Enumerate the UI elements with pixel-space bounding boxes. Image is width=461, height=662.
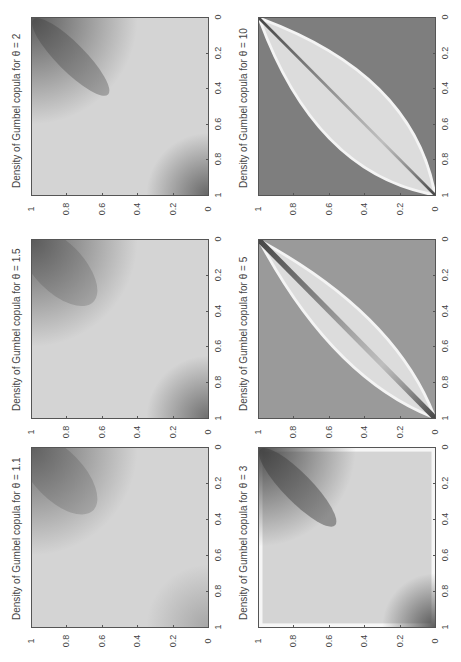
tick-mark [329,416,330,419]
y-tick-label: 0.4 [359,198,369,220]
tick-mark [400,193,401,196]
y-tick-label: 0 [430,198,440,220]
x-tick-label: 0.8 [440,371,450,393]
x-tick-label: 1 [440,616,450,638]
tick-mark [102,625,103,628]
tick-mark [206,239,209,240]
tick-mark [31,193,32,196]
tick-mark [258,193,259,196]
tick-mark [433,627,436,628]
x-tick-label: 0.8 [213,371,223,393]
y-tick-label: 0.2 [168,630,178,652]
tick-mark [206,483,209,484]
tick-mark [433,555,436,556]
tick-mark [206,591,209,592]
tick-mark [173,416,174,419]
y-tick-label: 0 [430,421,440,443]
x-tick-label: 0 [440,228,450,250]
y-tick-label: 0.6 [324,421,334,443]
y-tick-label: 0.8 [288,630,298,652]
density-heatmap [258,447,436,628]
tick-mark [137,416,138,419]
tick-mark [329,193,330,196]
tick-mark [433,88,436,89]
y-tick-label: 0.2 [395,421,405,443]
tick-mark [206,195,209,196]
tick-mark [364,416,365,419]
y-tick-label: 0.6 [97,630,107,652]
tick-mark [433,591,436,592]
y-tick-label: 0.2 [168,198,178,220]
x-tick-label: 0.4 [440,508,450,530]
tick-mark [206,17,209,18]
x-tick-label: 0.6 [440,544,450,566]
tick-mark [173,625,174,628]
panel-title: Density of Gumbel copula for θ = 5 [238,257,249,411]
tick-mark [31,625,32,628]
tick-mark [206,418,209,419]
x-tick-label: 0 [213,436,223,458]
x-tick-label: 0 [213,6,223,28]
y-tick-label: 1 [253,421,263,443]
density-heatmap [31,17,209,196]
y-tick-label: 0.6 [324,198,334,220]
x-tick-label: 1 [440,184,450,206]
x-tick-label: 0.8 [440,580,450,602]
tick-mark [433,239,436,240]
x-tick-label: 0.6 [213,544,223,566]
tick-mark [293,416,294,419]
tick-mark [293,193,294,196]
density-heatmap [31,239,209,419]
x-tick-label: 1 [213,184,223,206]
x-tick-label: 0.2 [213,472,223,494]
tick-mark [329,625,330,628]
y-tick-label: 1 [26,630,36,652]
y-tick-label: 0.6 [97,421,107,443]
y-tick-label: 0.8 [288,198,298,220]
y-tick-label: 0.4 [359,630,369,652]
x-tick-label: 0 [213,228,223,250]
tick-mark [433,17,436,18]
tick-mark [433,53,436,54]
x-tick-label: 0.4 [440,77,450,99]
x-tick-label: 0.6 [440,113,450,135]
tick-mark [433,519,436,520]
panel-title: Density of Gumbel copula for θ = 3 [238,466,249,620]
density-heatmap [31,447,209,628]
tick-mark [66,193,67,196]
tick-mark [66,416,67,419]
tick-mark [364,193,365,196]
tick-mark [173,193,174,196]
x-tick-label: 0.8 [213,148,223,170]
tick-mark [433,311,436,312]
tick-mark [400,416,401,419]
tick-mark [102,416,103,419]
x-tick-label: 0.4 [213,77,223,99]
tick-mark [206,346,209,347]
y-tick-label: 0.4 [359,421,369,443]
panel-title: Density of Gumbel copula for θ = 2 [11,34,22,188]
tick-mark [206,382,209,383]
tick-mark [400,625,401,628]
x-tick-label: 0 [440,436,450,458]
density-heatmap [258,17,436,196]
tick-mark [66,625,67,628]
x-tick-label: 0.4 [213,508,223,530]
y-tick-label: 0.6 [97,198,107,220]
tick-mark [364,625,365,628]
y-tick-label: 0 [203,421,213,443]
tick-mark [137,193,138,196]
y-tick-label: 0.2 [395,198,405,220]
y-tick-label: 0.4 [132,630,142,652]
tick-mark [433,275,436,276]
y-tick-label: 0.4 [132,198,142,220]
tick-mark [31,416,32,419]
tick-mark [433,346,436,347]
x-tick-label: 0.2 [440,264,450,286]
x-tick-label: 0 [440,6,450,28]
y-tick-label: 0.4 [132,421,142,443]
y-tick-label: 1 [253,630,263,652]
tick-mark [102,193,103,196]
density-heatmap [258,239,436,419]
tick-mark [433,447,436,448]
